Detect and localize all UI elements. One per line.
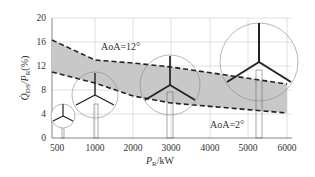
x-tick: 5000	[239, 143, 258, 153]
y-tick-labels: 0 4 8 12 16 20	[37, 13, 47, 143]
y-tick: 4	[41, 109, 46, 119]
y-tick: 8	[41, 85, 46, 95]
y-tick: 12	[37, 61, 47, 71]
x-tick: 3000	[162, 143, 181, 153]
y-tick: 16	[37, 37, 47, 47]
chart: AoA=12° AoA=2° 0 4 8 12 16 20 500 1000 2…	[0, 0, 315, 177]
x-tick: 500	[50, 143, 65, 153]
annotation-aoa-12: AoA=12°	[101, 41, 140, 52]
x-tick: 2000	[124, 143, 143, 153]
annotation-aoa-2: AoA=2°	[210, 119, 244, 130]
turbine-icon-500	[51, 104, 75, 138]
x-axis-label: PR/kW	[145, 155, 175, 168]
x-tick: 1000	[86, 143, 105, 153]
x-tick-labels: 500 1000 2000 3000 4000 5000 6000	[50, 143, 297, 153]
x-tick: 6000	[278, 143, 297, 153]
x-tick: 4000	[201, 143, 220, 153]
y-tick: 20	[37, 13, 47, 23]
y-tick: 0	[41, 133, 46, 143]
y-axis-label: Q̇DS/PR(%)	[19, 56, 32, 101]
